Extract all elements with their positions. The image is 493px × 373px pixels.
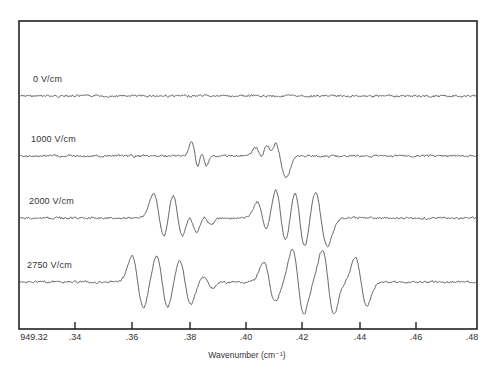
x-tick-label: .46 [410,332,423,342]
trace-label-1000vcm: 1000 V/cm [31,134,76,144]
x-tick-label: .44 [354,332,367,342]
x-tick-label: .42 [296,332,309,342]
x-tick-label: .36 [126,332,139,342]
spectrum-chart [0,0,493,373]
spectrum-trace [20,249,476,314]
x-tick-label: .40 [240,332,253,342]
x-tick-label: 949.32 [20,332,48,342]
x-tick-label: .34 [69,332,82,342]
trace-label-2000vcm: 2000 V/cm [29,196,74,206]
spectrum-trace [20,190,476,247]
x-tick-label: .38 [184,332,197,342]
spectrum-traces [20,95,476,315]
spectrum-trace [20,142,476,178]
trace-label-0vcm: 0 V/cm [33,74,62,84]
spectrum-trace [20,95,476,98]
x-axis-ticks [75,322,416,329]
trace-label-2750vcm: 2750 V/cm [27,260,72,270]
x-tick-label: .48 [466,332,479,342]
x-axis-title: Wavenumber (cm⁻¹) [208,350,285,360]
